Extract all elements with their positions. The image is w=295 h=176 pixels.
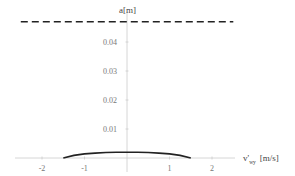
- x-tick-label: 2: [210, 164, 214, 173]
- x-axis-label: v'wy[m/s]: [243, 153, 279, 165]
- chart: -2-1120.010.020.030.04 a[m] v'wy[m/s]: [0, 0, 295, 176]
- y-tick-label: 0.02: [103, 96, 117, 105]
- y-tick-label: 0.03: [103, 67, 117, 76]
- y-tick-label: 0.04: [103, 38, 117, 47]
- x-tick-label: -2: [39, 164, 46, 173]
- y-axis-label: a[m]: [119, 5, 136, 15]
- y-tick-label: 0.01: [103, 125, 117, 134]
- x-tick-label: -1: [81, 164, 88, 173]
- x-tick-label: 1: [168, 164, 172, 173]
- x-axis-label-unit: [m/s]: [260, 153, 279, 163]
- x-axis-label-sub: wy: [249, 159, 256, 165]
